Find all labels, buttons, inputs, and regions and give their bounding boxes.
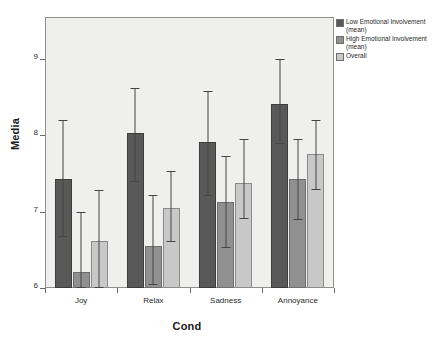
y-axis-tick: 7 bbox=[22, 212, 45, 213]
error-bar-stem bbox=[135, 88, 136, 183]
error-bar-cap-top bbox=[311, 120, 320, 121]
error-bar-cap-top bbox=[239, 139, 248, 140]
x-axis-category-label: Annoyance bbox=[278, 296, 318, 305]
error-bar bbox=[73, 212, 90, 289]
y-axis-tick-mark bbox=[40, 59, 45, 60]
error-bar-stem bbox=[153, 195, 154, 285]
error-bar-cap-bottom bbox=[239, 218, 248, 219]
error-bar-cap-top bbox=[203, 91, 212, 92]
error-bar-stem bbox=[225, 156, 226, 248]
error-bar-cap-bottom bbox=[95, 287, 104, 288]
x-axis-category-label: Joy bbox=[75, 296, 87, 305]
x-axis-category-label: Sadness bbox=[210, 296, 241, 305]
error-bar-cap-bottom bbox=[77, 287, 86, 288]
y-axis-tick-label: 6 bbox=[34, 281, 38, 290]
legend-color-swatch bbox=[336, 36, 344, 44]
y-axis-tick-label: 8 bbox=[34, 128, 38, 137]
y-axis-tick-label: 9 bbox=[34, 52, 38, 61]
bar-chart: Media Cond 6789 JoyRelaxSadnessAnnoyance… bbox=[0, 0, 444, 346]
error-bar bbox=[55, 120, 72, 238]
legend-item-label: Low Emotional Involvement (mean) bbox=[346, 18, 442, 33]
error-bar-cap-bottom bbox=[311, 189, 320, 190]
y-axis-title: Media bbox=[9, 99, 21, 169]
x-axis-tick bbox=[190, 288, 191, 293]
x-axis-tick bbox=[45, 288, 46, 293]
x-axis-category-label: Relax bbox=[143, 296, 163, 305]
error-bar-cap-top bbox=[275, 59, 284, 60]
error-bar-cap-top bbox=[131, 88, 140, 89]
y-axis-tick: 8 bbox=[22, 135, 45, 136]
error-bar bbox=[271, 59, 288, 145]
error-bar bbox=[91, 190, 108, 288]
legend-item[interactable]: Low Emotional Involvement (mean) bbox=[336, 18, 442, 33]
x-axis-title: Cond bbox=[0, 320, 374, 332]
legend-item[interactable]: Overall bbox=[336, 52, 442, 61]
error-bar-cap-top bbox=[149, 195, 158, 196]
legend-item-label: Overall bbox=[346, 52, 367, 60]
error-bar bbox=[289, 139, 306, 220]
error-bar-cap-top bbox=[95, 190, 104, 191]
error-bar bbox=[199, 91, 216, 197]
error-bar bbox=[145, 195, 162, 285]
y-axis-tick-mark bbox=[40, 212, 45, 213]
error-bar-stem bbox=[207, 91, 208, 197]
error-bar-stem bbox=[171, 171, 172, 242]
error-bar-cap-bottom bbox=[221, 247, 230, 248]
error-bar-cap-bottom bbox=[203, 195, 212, 196]
error-bar bbox=[163, 171, 180, 242]
error-bar bbox=[217, 156, 234, 248]
error-bar bbox=[235, 139, 252, 219]
y-axis-tick: 6 bbox=[22, 288, 45, 289]
x-axis-tick bbox=[262, 288, 263, 293]
error-bar-stem bbox=[315, 120, 316, 190]
y-axis-tick: 9 bbox=[22, 59, 45, 60]
chart-legend: Low Emotional Involvement (mean)High Emo… bbox=[336, 18, 442, 63]
error-bar-stem bbox=[243, 139, 244, 219]
legend-item[interactable]: High Emotional Involvement (mean) bbox=[336, 35, 442, 50]
error-bar-cap-bottom bbox=[293, 219, 302, 220]
error-bar-cap-top bbox=[221, 156, 230, 157]
x-axis-tick bbox=[334, 288, 335, 293]
error-bar-stem bbox=[297, 139, 298, 220]
error-bar-cap-top bbox=[167, 171, 176, 172]
error-bar bbox=[127, 88, 144, 183]
error-bar-stem bbox=[63, 120, 64, 238]
error-bar-cap-top bbox=[293, 139, 302, 140]
legend-color-swatch bbox=[336, 53, 344, 61]
legend-color-swatch bbox=[336, 19, 344, 27]
error-bar-cap-top bbox=[77, 212, 86, 213]
error-bar-cap-bottom bbox=[149, 284, 158, 285]
error-bar-stem bbox=[279, 59, 280, 145]
y-axis-tick-mark bbox=[40, 135, 45, 136]
y-axis-tick-label: 7 bbox=[34, 205, 38, 214]
error-bar-cap-bottom bbox=[275, 143, 284, 144]
legend-item-label: High Emotional Involvement (mean) bbox=[346, 35, 442, 50]
error-bar-cap-bottom bbox=[59, 236, 68, 237]
error-bar-cap-top bbox=[59, 120, 68, 121]
x-axis-tick bbox=[117, 288, 118, 293]
error-bar-stem bbox=[81, 212, 82, 289]
error-bar bbox=[307, 120, 324, 190]
error-bar-cap-bottom bbox=[131, 181, 140, 182]
error-bar-cap-bottom bbox=[167, 241, 176, 242]
error-bar-stem bbox=[99, 190, 100, 288]
